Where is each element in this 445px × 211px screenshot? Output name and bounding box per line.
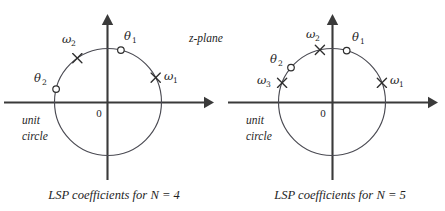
omega-1-cross-marker-left	[151, 73, 160, 82]
panel-left: 0 unit circle z-plane θ 1 ω 2 θ	[4, 14, 223, 202]
unit-circle-label-right-line2: circle	[246, 130, 272, 142]
theta-2-label-left: θ	[34, 71, 41, 85]
origin-label-right: 0	[320, 107, 326, 119]
panel-right: 0 unit circle θ 1 ω 2 θ 2	[228, 14, 438, 202]
theta-2-subscript-right: 2	[278, 59, 283, 68]
theta-1-label-right: θ	[352, 30, 359, 44]
theta-1-subscript-left: 1	[132, 36, 137, 45]
marker-theta-1-right: θ 1	[343, 30, 364, 54]
figure-canvas: 0 unit circle z-plane θ 1 ω 2 θ	[0, 0, 445, 211]
z-plane-label: z-plane	[188, 32, 223, 45]
theta-1-open-circle-marker-right	[343, 47, 350, 54]
marker-theta-1-left: θ 1	[118, 29, 137, 53]
theta-1-open-circle-marker-left	[118, 47, 125, 54]
theta-1-label-left: θ	[124, 29, 131, 43]
origin-label-left: 0	[96, 107, 102, 119]
marker-theta-2-left: θ 2	[34, 71, 59, 92]
omega-1-cross-marker-right	[377, 78, 386, 87]
lsp-unit-circle-figure: 0 unit circle z-plane θ 1 ω 2 θ	[0, 0, 445, 211]
omega-1-subscript-right: 1	[399, 80, 404, 89]
omega-3-cross-marker-right	[278, 78, 287, 87]
unit-circle-label-right-line1: unit	[246, 114, 265, 126]
marker-theta-2-right: θ 2	[270, 52, 294, 71]
imaginary-axis-arrowhead-right	[327, 14, 338, 25]
real-axis-arrowhead	[204, 97, 214, 108]
marker-omega-2-left: ω 2	[62, 32, 82, 63]
theta-2-subscript-left: 2	[42, 78, 47, 87]
imaginary-axis-arrowhead	[102, 14, 113, 25]
unit-circle-label-left-line1: unit	[22, 114, 41, 126]
real-axis-left	[4, 97, 214, 108]
unit-circle-label-left-line2: circle	[22, 130, 48, 142]
marker-omega-1-left: ω 1	[151, 69, 178, 85]
theta-2-open-circle-marker-right	[288, 64, 295, 71]
caption-right: LSP coefficients for N = 5	[273, 188, 406, 202]
omega-1-subscript-left: 1	[173, 76, 178, 85]
omega-3-subscript-right: 3	[266, 80, 271, 89]
omega-2-subscript-right: 2	[315, 34, 320, 43]
theta-1-subscript-right: 1	[360, 37, 365, 46]
theta-2-label-right: θ	[270, 52, 277, 66]
marker-omega-2-right: ω 2	[306, 27, 325, 55]
omega-2-subscript-left: 2	[71, 39, 76, 48]
omega-2-cross-marker-left	[73, 54, 82, 63]
caption-left: LSP coefficients for N = 4	[47, 188, 180, 202]
omega-2-cross-marker-right	[315, 45, 324, 54]
theta-2-open-circle-marker-left	[53, 86, 60, 93]
real-axis-arrowhead-right	[428, 97, 438, 108]
